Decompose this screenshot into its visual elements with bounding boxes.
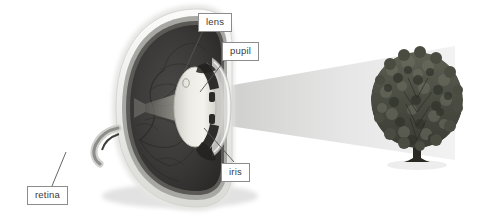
label-iris[interactable]: iris xyxy=(221,163,250,182)
leader-retina xyxy=(52,152,66,186)
label-pupil[interactable]: pupil xyxy=(222,42,259,61)
label-lens[interactable]: lens xyxy=(198,13,232,32)
label-retina[interactable]: retina xyxy=(27,186,68,205)
eye-diagram-figure: lens pupil iris retina xyxy=(0,0,484,216)
pupil-opening-lower xyxy=(209,114,215,124)
eye-diagram-artwork xyxy=(0,0,484,216)
pupil-opening xyxy=(209,92,215,102)
